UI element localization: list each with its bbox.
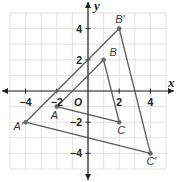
x-tick-label: −2 xyxy=(51,96,63,108)
y-axis-arrow-up-icon xyxy=(85,2,91,8)
x-tick-label: −4 xyxy=(20,96,32,108)
vertex-label: B′ xyxy=(115,13,125,25)
y-tick-label: 4 xyxy=(76,23,82,35)
x-tick-label: 2 xyxy=(116,96,122,108)
x-axis-arrow-left-icon xyxy=(2,88,8,94)
y-tick-label: −4 xyxy=(70,147,82,159)
y-axis-label: y xyxy=(92,0,100,13)
vertex-label: C′ xyxy=(146,155,157,167)
x-tick-label: 4 xyxy=(147,96,153,108)
vertex-label: A′ xyxy=(13,120,24,132)
coordinate-plane: −4−22442−2−4OxyABCA′B′C′ xyxy=(0,0,176,182)
y-tick-label: 2 xyxy=(76,54,82,66)
y-tick-label: −2 xyxy=(70,116,82,128)
x-axis-label: x xyxy=(167,75,175,90)
origin-label: O xyxy=(74,96,82,108)
vertex-label: C xyxy=(117,124,125,136)
y-axis-arrow-down-icon xyxy=(85,174,91,180)
vertex-label: B xyxy=(110,46,117,58)
vertex-point xyxy=(23,120,28,125)
vertex-label: A xyxy=(50,109,58,121)
vertex-point xyxy=(117,26,122,31)
vertex-point xyxy=(101,58,106,63)
